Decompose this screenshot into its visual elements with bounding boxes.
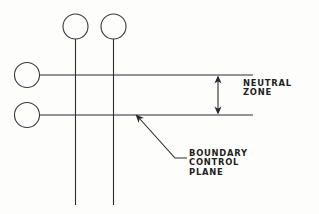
- top-right-circle: [101, 14, 126, 39]
- technical-diagram: NEUTRAL ZONE BOUNDARY CONTROL PLANE: [0, 0, 319, 214]
- neutral-zone-label: NEUTRAL ZONE: [243, 79, 292, 98]
- boundary-control-plane-leader-line: [140, 119, 188, 159]
- diagram-canvas: [0, 0, 319, 214]
- left-lower-circle: [15, 103, 40, 128]
- boundary-control-plane-label: BOUNDARY CONTROL PLANE: [189, 149, 248, 177]
- top-left-circle: [63, 14, 88, 39]
- left-upper-circle: [15, 63, 40, 88]
